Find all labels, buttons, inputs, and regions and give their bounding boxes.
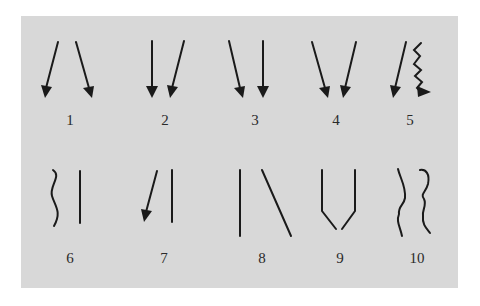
figure-4-converging-arrows-icon <box>312 42 356 98</box>
figure-4-label: 4 <box>332 113 340 128</box>
figure-5-zigzag-arrow-icon <box>390 42 431 98</box>
figure-2-arrows-icon <box>146 41 184 98</box>
figure-10-irregular-lines-icon <box>398 169 430 236</box>
figure-7-arrow-and-line-icon <box>141 170 172 222</box>
figure-6-wavy-and-straight-lines-icon <box>52 170 80 226</box>
figure-9-label: 9 <box>336 251 344 266</box>
figure-1-diverging-arrows-icon <box>41 42 94 98</box>
figure-1-label: 1 <box>66 113 74 128</box>
figure-5-label: 5 <box>406 113 414 128</box>
figure-8-label: 8 <box>258 251 266 266</box>
figure-9-funnel-lines-icon <box>322 170 355 229</box>
figure-10-label: 10 <box>410 251 425 266</box>
figure-2-label: 2 <box>161 113 169 128</box>
figure-7-label: 7 <box>160 251 168 266</box>
figure-3-arrows-icon <box>229 41 269 98</box>
figure-6-label: 6 <box>66 251 74 266</box>
figure-8-vertical-and-diagonal-lines-icon <box>240 170 291 236</box>
figure-3-label: 3 <box>251 113 259 128</box>
